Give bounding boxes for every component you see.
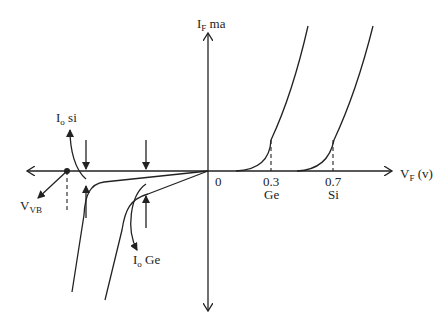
vvb-label: VVB bbox=[20, 198, 42, 215]
io-ge-arrow bbox=[131, 184, 146, 250]
ge-forward-curve bbox=[236, 26, 308, 171]
ge-reverse-curve bbox=[105, 171, 208, 300]
io-ge-label: Io Ge bbox=[133, 252, 160, 269]
y-axis-label: IF ma bbox=[197, 16, 226, 33]
si-tick-material: Si bbox=[328, 187, 339, 202]
ge-tick-material: Ge bbox=[264, 187, 279, 202]
si-forward-curve bbox=[297, 26, 373, 171]
diode-characteristics-diagram: IF ma VF (v) 0 0.3 Ge 0.7 Si Io si Io Ge… bbox=[0, 0, 448, 325]
x-axis-label: VF (v) bbox=[400, 166, 433, 183]
origin-label: 0 bbox=[215, 174, 222, 189]
vvb-arrow bbox=[38, 171, 67, 198]
io-si-label: Io si bbox=[56, 110, 77, 127]
diagram-canvas: IF ma VF (v) 0 0.3 Ge 0.7 Si Io si Io Ge… bbox=[0, 0, 448, 325]
